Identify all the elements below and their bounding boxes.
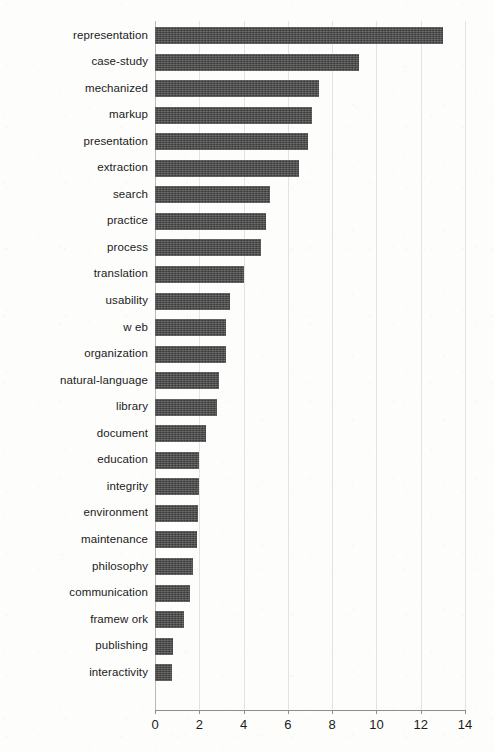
bar-fill [155, 133, 308, 150]
bar [155, 346, 226, 363]
bar [155, 54, 359, 71]
category-label: organization [0, 347, 148, 359]
bar [155, 505, 198, 522]
bar-fill [155, 213, 266, 230]
bar-fill [155, 638, 173, 655]
category-label: interactivity [0, 666, 148, 678]
category-label: philosophy [0, 560, 148, 572]
bar [155, 213, 266, 230]
category-label: environment [0, 506, 148, 518]
x-tick-label: 4 [224, 717, 264, 732]
bar [155, 186, 270, 203]
x-tick-mark-10 [376, 710, 377, 714]
bar [155, 107, 312, 124]
category-label: practice [0, 214, 148, 226]
x-tick-label: 6 [268, 717, 308, 732]
gridline-2 [199, 21, 200, 710]
x-tick-label: 8 [312, 717, 352, 732]
bar-fill [155, 160, 299, 177]
x-tick-mark-12 [421, 710, 422, 714]
bar-fill [155, 80, 319, 97]
bar [155, 160, 299, 177]
gridline-0 [155, 21, 156, 710]
x-axis-line [155, 710, 466, 711]
bar-fill [155, 54, 359, 71]
category-label: w eb [0, 321, 148, 333]
bar [155, 293, 230, 310]
bar-chart: representationcase-studymechanizedmarkup… [0, 0, 494, 752]
bar [155, 425, 206, 442]
bar-fill [155, 664, 172, 681]
bar-fill [155, 585, 190, 602]
bar [155, 638, 173, 655]
bar-fill [155, 452, 199, 469]
bar-fill [155, 239, 261, 256]
category-axis-labels: representationcase-studymechanizedmarkup… [0, 21, 148, 710]
category-label: translation [0, 267, 148, 279]
bar [155, 585, 190, 602]
bar [155, 664, 172, 681]
bar-fill [155, 293, 230, 310]
gridline-4 [244, 21, 245, 710]
bar-fill [155, 478, 199, 495]
bar [155, 133, 308, 150]
category-label: process [0, 241, 148, 253]
bar [155, 27, 443, 44]
category-label: document [0, 427, 148, 439]
category-label: mechanized [0, 82, 148, 94]
category-label: education [0, 453, 148, 465]
gridline-10 [376, 21, 377, 710]
bar [155, 399, 217, 416]
x-tick-mark-14 [465, 710, 466, 714]
bar-fill [155, 319, 226, 336]
bar [155, 372, 219, 389]
bar [155, 80, 319, 97]
category-label: library [0, 400, 148, 412]
bar-fill [155, 186, 270, 203]
bar-fill [155, 372, 219, 389]
x-tick-mark-2 [199, 710, 200, 714]
x-tick-mark-4 [244, 710, 245, 714]
x-tick-label: 2 [179, 717, 219, 732]
category-label: publishing [0, 639, 148, 651]
bar [155, 452, 199, 469]
bar [155, 531, 197, 548]
category-label: case-study [0, 55, 148, 67]
x-tick-mark-8 [332, 710, 333, 714]
category-label: natural-language [0, 374, 148, 386]
category-label: integrity [0, 480, 148, 492]
gridline-12 [421, 21, 422, 710]
category-label: communication [0, 586, 148, 598]
bar-fill [155, 425, 206, 442]
bar-fill [155, 399, 217, 416]
bar [155, 266, 244, 283]
x-tick-label: 12 [401, 717, 441, 732]
plot-area [155, 21, 465, 710]
gridline-8 [332, 21, 333, 710]
bar-fill [155, 611, 184, 628]
bar [155, 611, 184, 628]
bar [155, 558, 193, 575]
x-tick-label: 14 [445, 717, 485, 732]
bar [155, 478, 199, 495]
bar-fill [155, 266, 244, 283]
bar-fill [155, 346, 226, 363]
bar-fill [155, 531, 197, 548]
category-label: search [0, 188, 148, 200]
category-label: extraction [0, 161, 148, 173]
x-tick-label: 10 [356, 717, 396, 732]
category-label: presentation [0, 135, 148, 147]
x-tick-label: 0 [135, 717, 175, 732]
x-tick-mark-6 [288, 710, 289, 714]
category-label: representation [0, 29, 148, 41]
bar-fill [155, 27, 443, 44]
bar [155, 319, 226, 336]
gridline-6 [288, 21, 289, 710]
bar-fill [155, 505, 198, 522]
category-label: markup [0, 108, 148, 120]
category-label: framew ork [0, 613, 148, 625]
bar [155, 239, 261, 256]
category-label: usability [0, 294, 148, 306]
bar-fill [155, 107, 312, 124]
x-tick-mark-0 [155, 710, 156, 714]
